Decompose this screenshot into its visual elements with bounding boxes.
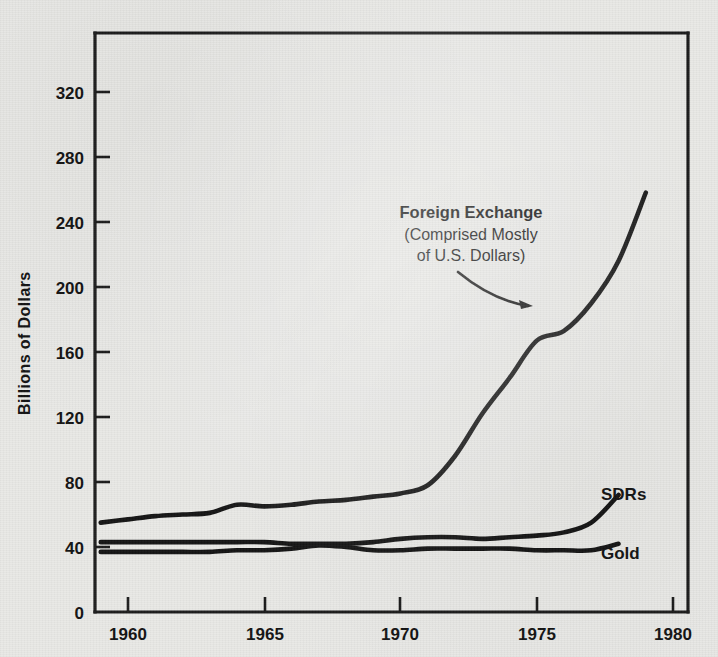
y-tick-label-40: 40 xyxy=(65,539,84,558)
y-tick-label-80: 80 xyxy=(65,474,84,493)
series-line-foreign-exchange xyxy=(101,193,646,523)
x-tick-label-1965: 1965 xyxy=(246,625,284,644)
callout-line-1: Foreign Exchange xyxy=(399,203,542,221)
x-tick-label-1980: 1980 xyxy=(654,625,692,644)
y-tick-label-240: 240 xyxy=(56,214,84,233)
callout-arrow-head xyxy=(519,300,533,309)
y-axis-title-group: Billions of Dollars xyxy=(16,271,33,415)
x-tick-labels: 1960 1965 1970 1975 1980 xyxy=(109,625,692,644)
x-tick-label-1960: 1960 xyxy=(109,625,147,644)
y-axis-ticks xyxy=(95,92,110,547)
data-series-group xyxy=(101,193,646,552)
y-tick-label-0: 0 xyxy=(75,604,84,623)
y-tick-label-320: 320 xyxy=(56,84,84,103)
y-tick-labels: 320 280 240 200 160 120 80 40 0 xyxy=(56,84,84,623)
callout-leader-line xyxy=(458,272,528,306)
y-tick-label-120: 120 xyxy=(56,409,84,428)
chart-container: 320 280 240 200 160 120 80 40 0 Billions… xyxy=(0,0,718,657)
foreign-exchange-callout: Foreign Exchange (Comprised Mostly of U.… xyxy=(399,203,542,309)
reserves-line-chart: 320 280 240 200 160 120 80 40 0 Billions… xyxy=(0,0,718,657)
x-axis-ticks xyxy=(128,597,673,612)
series-label-gold: Gold xyxy=(601,544,640,563)
series-labels: SDRs Gold xyxy=(601,485,646,563)
series-line-sdrs xyxy=(101,495,619,544)
y-tick-label-160: 160 xyxy=(56,344,84,363)
y-axis-title: Billions of Dollars xyxy=(16,271,33,415)
series-label-sdrs: SDRs xyxy=(601,485,646,504)
y-tick-label-200: 200 xyxy=(56,279,84,298)
plot-frame xyxy=(95,33,688,612)
y-tick-label-280: 280 xyxy=(56,149,84,168)
callout-line-2: (Comprised Mostly xyxy=(404,226,537,243)
x-tick-label-1970: 1970 xyxy=(381,625,419,644)
x-tick-label-1975: 1975 xyxy=(518,625,556,644)
callout-line-3: of U.S. Dollars) xyxy=(417,247,525,264)
